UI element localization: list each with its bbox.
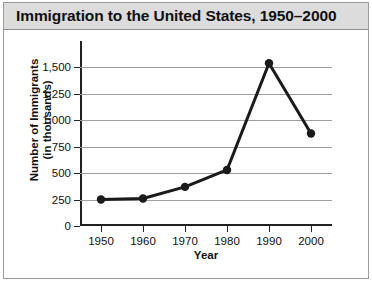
y-axis-tick-label: 1,250: [42, 88, 71, 100]
data-point-marker: 2000: 875: [307, 129, 315, 137]
y-axis-tick-label: 250: [52, 194, 71, 206]
series-polyline: [101, 63, 311, 199]
x-axis-tick-label: 1980: [214, 235, 240, 247]
x-axis-tick: [101, 226, 102, 232]
x-axis-tick-label: 1950: [88, 235, 114, 247]
data-point-marker: 1950: 250: [97, 195, 105, 203]
y-axis-tick: [74, 226, 80, 227]
x-axis-tick: [269, 226, 270, 232]
x-axis-tick: [185, 226, 186, 232]
x-axis-tick: [227, 226, 228, 232]
x-axis-tick-label: 1960: [130, 235, 156, 247]
data-point-marker: 1980: 530: [223, 166, 231, 174]
x-axis-tick: [143, 226, 144, 232]
y-axis-tick-label: 500: [52, 167, 71, 179]
x-axis-tick-label: 1970: [172, 235, 198, 247]
data-series-line: 1950: 2501960: 2601970: 3701980: 5301990…: [80, 41, 332, 226]
x-axis-tick-label: 2000: [298, 235, 324, 247]
data-point-marker: 1970: 370: [181, 183, 189, 191]
y-axis-tick-label: 750: [52, 141, 71, 153]
y-axis-tick-label: 1,500: [42, 61, 71, 73]
plot-area: 02505007501,0001,2501,500 19501960197019…: [80, 41, 332, 226]
x-axis-title: Year: [80, 249, 332, 261]
y-axis-tick-label: 1,000: [42, 114, 71, 126]
x-axis-tick: [311, 226, 312, 232]
y-axis-title-line-1: Number of Immigrants: [28, 35, 41, 205]
y-axis-tick-label: 0: [65, 220, 71, 232]
chart-title-bar: Immigration to the United States, 1950–2…: [4, 3, 368, 30]
chart-title: Immigration to the United States, 1950–2…: [4, 7, 336, 25]
x-axis-tick-label: 1990: [256, 235, 282, 247]
chart-body: Number of Immigrants (in thousands) 0250…: [4, 31, 368, 278]
data-point-marker: 1990: 1540: [265, 59, 273, 67]
data-point-marker: 1960: 260: [139, 194, 147, 202]
chart-figure: Immigration to the United States, 1950–2…: [0, 0, 372, 281]
